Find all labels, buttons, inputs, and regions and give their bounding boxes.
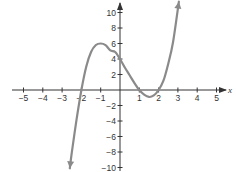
x-tick-label: 5 xyxy=(214,93,219,103)
x-tick-label: −1 xyxy=(96,93,106,103)
axis-ticks: −5−4−3−2−112345−10−8−6−4−2246810 xyxy=(19,8,219,172)
x-tick-label: 2 xyxy=(156,93,161,103)
y-tick-label: −10 xyxy=(102,163,117,172)
x-tick-label: −3 xyxy=(57,93,67,103)
function-curve xyxy=(70,2,179,169)
y-tick-label: 8 xyxy=(111,23,116,33)
cubic-function-graph: −5−4−3−2−112345−10−8−6−4−2246810 x xyxy=(0,0,236,171)
y-tick-label: −6 xyxy=(106,132,116,142)
x-tick-label: −4 xyxy=(38,93,48,103)
x-axis-label: x xyxy=(227,85,232,95)
x-tick-label: 1 xyxy=(137,93,142,103)
x-tick-label: 4 xyxy=(195,93,200,103)
y-tick-label: 4 xyxy=(111,54,116,64)
y-tick-label: −2 xyxy=(106,101,116,111)
y-tick-label: 2 xyxy=(111,70,116,80)
y-tick-label: −8 xyxy=(106,147,116,157)
y-tick-label: −4 xyxy=(106,116,116,126)
y-tick-label: 10 xyxy=(107,8,117,18)
x-tick-label: −5 xyxy=(19,93,29,103)
y-tick-label: 6 xyxy=(111,39,116,49)
x-tick-label: 3 xyxy=(176,93,181,103)
